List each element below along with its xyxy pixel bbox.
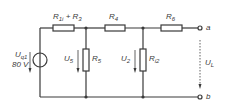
arrow-head-icon (77, 68, 80, 73)
arrow-head-icon (199, 84, 202, 89)
junction-dot (84, 26, 87, 29)
resistor-r1i-r3 (53, 25, 74, 31)
label-r4: R4 (109, 12, 118, 24)
terminal-a-icon (198, 26, 202, 30)
label-u5: U5 (64, 54, 73, 66)
label-ul: UL (205, 58, 214, 70)
terminal-a-label: a (206, 23, 210, 32)
resistor-r6 (161, 25, 182, 31)
junction-dot (84, 95, 87, 98)
arrow-head-icon (134, 68, 137, 73)
arrow-head-icon (29, 68, 32, 73)
terminal-b-icon (198, 95, 202, 99)
label-r1i-r3: R1i + R3 (53, 12, 82, 24)
resistor-r5 (83, 49, 89, 71)
label-source-value: 80 V (12, 60, 28, 69)
junction-dot (141, 95, 144, 98)
label-r5: R5 (92, 54, 101, 66)
junction-dot (141, 26, 144, 29)
terminal-b-label: b (206, 92, 210, 101)
label-ri2: Ri2 (149, 54, 159, 66)
resistor-ri2 (140, 49, 146, 71)
resistor-r4 (105, 25, 125, 31)
label-u2: U2 (121, 54, 130, 66)
label-r6: R6 (166, 12, 175, 24)
